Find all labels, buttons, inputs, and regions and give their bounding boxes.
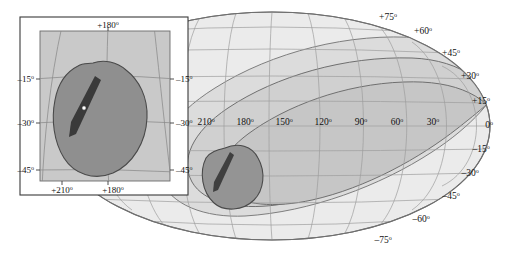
source-marker-dot[interactable] [82, 106, 86, 110]
zoom-inset-panel[interactable]: +180o +210o +180o –15o –30o –45o [17, 17, 193, 195]
inset-bottom-label: +210o [51, 185, 73, 195]
latitude-label: –15o [471, 144, 489, 154]
inset-bottom-label: +180o [102, 185, 124, 195]
figure-canvas: +75o +60o +45o +30o +15o 0o –15o –30o [0, 0, 505, 259]
latitude-label: –30o [460, 168, 478, 178]
latitude-label: –45o [441, 191, 459, 201]
latitude-label: +45o [442, 48, 460, 58]
sky-map-figure: +75o +60o +45o +30o +15o 0o –15o –30o [0, 0, 505, 259]
inset-top-label-group: +180o [97, 20, 119, 30]
latitude-label: +30o [461, 71, 479, 81]
latitude-label: –75o [373, 235, 391, 245]
latitude-label: –60o [411, 214, 429, 224]
inset-top-label: +180o [97, 20, 119, 30]
latitude-label: +15o [472, 96, 490, 106]
latitude-label: 0o [485, 120, 493, 130]
dark-source-blob [202, 145, 263, 209]
latitude-label: +75o [379, 12, 397, 22]
latitude-label: +60o [414, 26, 432, 36]
